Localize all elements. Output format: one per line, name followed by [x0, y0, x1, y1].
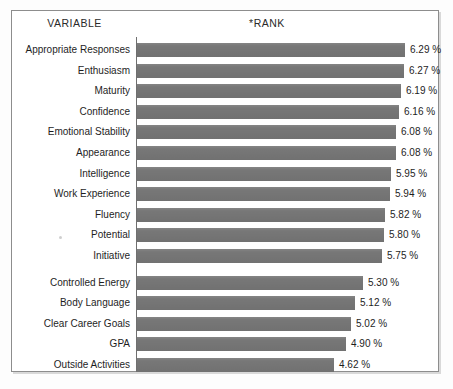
bar-row: Appearance6.08 %: [12, 146, 438, 160]
bar-value-label: 5.75 %: [387, 249, 418, 263]
chart-header: VARIABLE *RANK: [12, 17, 438, 37]
bar-row: Intelligence5.95 %: [12, 167, 438, 181]
chart-frame: VARIABLE *RANK Appropriate Responses6.29…: [11, 10, 439, 372]
bar: [137, 146, 396, 160]
bar-value-label: 5.95 %: [396, 167, 427, 181]
bar-category-label: Body Language: [12, 296, 130, 310]
bar-value-label: 5.82 %: [390, 208, 421, 222]
bar-category-label: Intelligence: [12, 167, 130, 181]
bar-value-label: 6.16 %: [404, 105, 435, 119]
column-header-rank: *RANK: [137, 17, 397, 29]
bar-row: Maturity6.19 %: [12, 84, 438, 98]
bar-category-label: Appropriate Responses: [12, 43, 130, 57]
bar-category-label: Fluency: [12, 208, 130, 222]
bar-category-label: Outside Activities: [12, 358, 130, 372]
column-header-variable: VARIABLE: [12, 17, 137, 29]
bar-row: Emotional Stability6.08 %: [12, 125, 438, 139]
bar: [137, 228, 384, 242]
bar-row: Enthusiasm6.27 %: [12, 64, 438, 78]
bar: [137, 84, 401, 98]
bar: [137, 358, 334, 372]
bar-row: Potential5.80 %: [12, 228, 438, 242]
bar-row: Clear Career Goals5.02 %: [12, 317, 438, 331]
bar-row: Fluency5.82 %: [12, 208, 438, 222]
bar-value-label: 4.90 %: [351, 337, 382, 351]
bar: [137, 337, 346, 351]
bar-category-label: Work Experience: [12, 187, 130, 201]
bar-category-label: GPA: [12, 337, 130, 351]
bar-row: Confidence6.16 %: [12, 105, 438, 119]
bar: [137, 64, 404, 78]
bar: [137, 187, 390, 201]
bar-value-label: 5.30 %: [368, 276, 399, 290]
bar-row: Outside Activities4.62 %: [12, 358, 438, 372]
bar-category-label: Confidence: [12, 105, 130, 119]
bar-value-label: 5.80 %: [389, 228, 420, 242]
bar-value-label: 5.02 %: [356, 317, 387, 331]
bar: [137, 317, 351, 331]
bar-value-label: 6.27 %: [409, 64, 440, 78]
bar-category-label: Emotional Stability: [12, 125, 130, 139]
bar-category-label: Enthusiasm: [12, 64, 130, 78]
bar: [137, 296, 355, 310]
bar-category-label: Clear Career Goals: [12, 317, 130, 331]
bar: [137, 105, 399, 119]
bar-row: Appropriate Responses6.29 %: [12, 43, 438, 57]
bar-category-label: Maturity: [12, 84, 130, 98]
bar-category-label: Appearance: [12, 146, 130, 160]
plot-area: Appropriate Responses6.29 %Enthusiasm6.2…: [12, 37, 438, 371]
scan-speck: [59, 236, 62, 239]
bar-value-label: 4.62 %: [339, 358, 370, 372]
bar-row: Controlled Energy5.30 %: [12, 276, 438, 290]
bar: [137, 125, 396, 139]
bar-value-label: 5.12 %: [360, 296, 391, 310]
bar-value-label: 5.94 %: [395, 187, 426, 201]
bar: [137, 208, 385, 222]
bar-row: Body Language5.12 %: [12, 296, 438, 310]
bar-value-label: 6.08 %: [401, 146, 432, 160]
bar: [137, 43, 405, 57]
bar-category-label: Initiative: [12, 249, 130, 263]
bar-value-label: 6.29 %: [410, 43, 441, 57]
bar: [137, 167, 391, 181]
bar-category-label: Controlled Energy: [12, 276, 130, 290]
bar-row: Work Experience5.94 %: [12, 187, 438, 201]
bar: [137, 276, 363, 290]
bar-value-label: 6.08 %: [401, 125, 432, 139]
bar-category-label: Potential: [12, 228, 130, 242]
bar-value-label: 6.19 %: [406, 84, 437, 98]
bar: [137, 249, 382, 263]
bar-row: GPA4.90 %: [12, 337, 438, 351]
rank-bar-chart-figure: VARIABLE *RANK Appropriate Responses6.29…: [0, 0, 453, 389]
bar-row: Initiative5.75 %: [12, 249, 438, 263]
